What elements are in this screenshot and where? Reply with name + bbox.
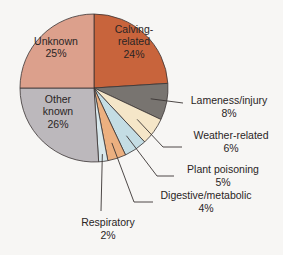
value-calving-related: 24% [123, 48, 144, 60]
label-digestive-metabolic: Digestive/metabolic [160, 189, 251, 201]
label-calving-related: related [118, 35, 150, 47]
value-plant-poisoning: 5% [215, 176, 230, 188]
label-unknown: Unknown [34, 35, 78, 47]
pie-chart: Calving-related24%Lameness/injury8%Weath… [0, 0, 283, 255]
value-unknown: 25% [45, 47, 66, 59]
value-digestive-metabolic: 4% [198, 202, 213, 214]
label-respiratory: Respiratory [81, 216, 135, 228]
leader-line-respiratory [101, 154, 102, 211]
label-other-known: known [43, 105, 74, 117]
label-lameness-injury: Lameness/injury [191, 94, 268, 106]
value-lameness-injury: 8% [221, 107, 236, 119]
value-other-known: 26% [47, 118, 68, 130]
label-other-known: Other [45, 93, 72, 105]
label-weather-related: Weather-related [193, 129, 268, 141]
value-weather-related: 6% [223, 142, 238, 154]
label-calving-related: Calving- [115, 23, 154, 35]
value-respiratory: 2% [100, 229, 115, 241]
label-plant-poisoning: Plant poisoning [187, 163, 259, 175]
